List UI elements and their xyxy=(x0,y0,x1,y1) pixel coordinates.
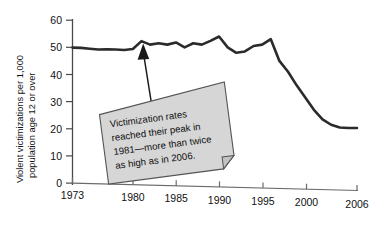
x-tick-label-2006: 2006 xyxy=(345,198,369,210)
y-tick-label-50: 50 xyxy=(50,41,62,53)
x-tick-label-1985: 1985 xyxy=(165,192,189,204)
y-axis-title-line2: population age 12 or over xyxy=(27,73,37,178)
y-axis-title-line1: Violent victimizations per 1,000 xyxy=(15,55,25,183)
x-axis-line xyxy=(73,183,359,190)
callout-folded-corner xyxy=(222,155,235,168)
y-tick-label-10: 10 xyxy=(50,150,62,162)
y-tick-label-20: 20 xyxy=(50,123,62,135)
x-tick-label-1980: 1980 xyxy=(121,191,145,203)
x-tick-label-1990: 1990 xyxy=(208,194,232,206)
y-axis: 60 50 40 30 20 10 0 xyxy=(50,14,72,189)
callout-arrow-head xyxy=(138,44,150,60)
y-tick-label-0: 0 xyxy=(56,177,62,189)
y-axis-title: Violent victimizations per 1,000 populat… xyxy=(15,55,37,183)
y-tick-label-40: 40 xyxy=(50,69,62,81)
x-tick-label-1973: 1973 xyxy=(61,189,85,201)
x-tick-label-2000: 2000 xyxy=(295,196,319,208)
peak-callout: Victimization rates reached their peak i… xyxy=(97,44,235,185)
y-tick-label-60: 60 xyxy=(50,14,62,26)
x-axis: 1973 1980 1985 1990 1995 2000 2006 xyxy=(61,178,369,210)
x-tick-label-1995: 1995 xyxy=(251,195,275,207)
violent-victimization-line-chart: Violent victimizations per 1,000 populat… xyxy=(0,0,382,228)
y-tick-label-30: 30 xyxy=(50,96,62,108)
chart-canvas: Violent victimizations per 1,000 populat… xyxy=(0,0,382,228)
